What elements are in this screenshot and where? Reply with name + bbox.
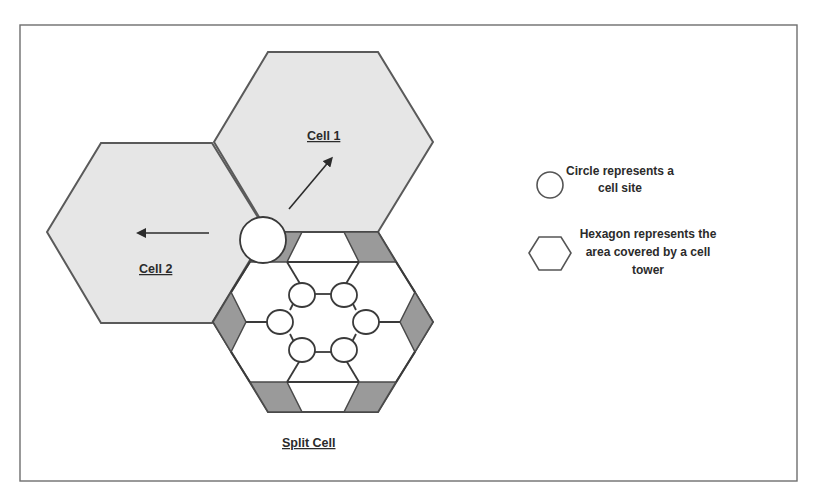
small-site-circle [331,283,357,307]
legend-hexagon-line-1: Hexagon represents the [580,227,717,241]
legend-hexagon-line-2: area covered by a cell [586,245,711,259]
circle-icon [537,172,563,198]
cell-2-label: Cell 2 [139,262,172,276]
cell-split-diagram: Cell 1 Cell 2 Split Cell Circle represen… [0,0,815,499]
small-site-circle [289,283,315,307]
legend-circle-line-1: Circle represents a [566,164,674,178]
hexagon-icon [529,237,571,270]
cell-1-label: Cell 1 [307,129,340,143]
small-site-circle [353,310,379,334]
legend-hexagon-line-3: tower [632,263,664,277]
small-site-circle [289,338,315,362]
small-site-circle [331,338,357,362]
split-cell-label: Split Cell [282,436,335,450]
legend-circle-line-2: cell site [598,181,642,195]
small-site-circle [267,310,293,334]
cell-site-circle [240,217,286,263]
